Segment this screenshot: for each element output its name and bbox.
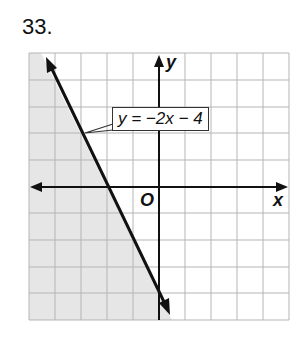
label-pointer xyxy=(85,124,113,133)
graph xyxy=(0,0,293,343)
y-axis-arrow-up xyxy=(154,55,164,67)
origin-label: O xyxy=(140,190,154,211)
y-axis-label: y xyxy=(166,52,176,73)
equation-label: y = −2x − 4 xyxy=(112,107,209,131)
x-axis-label: x xyxy=(273,190,283,211)
